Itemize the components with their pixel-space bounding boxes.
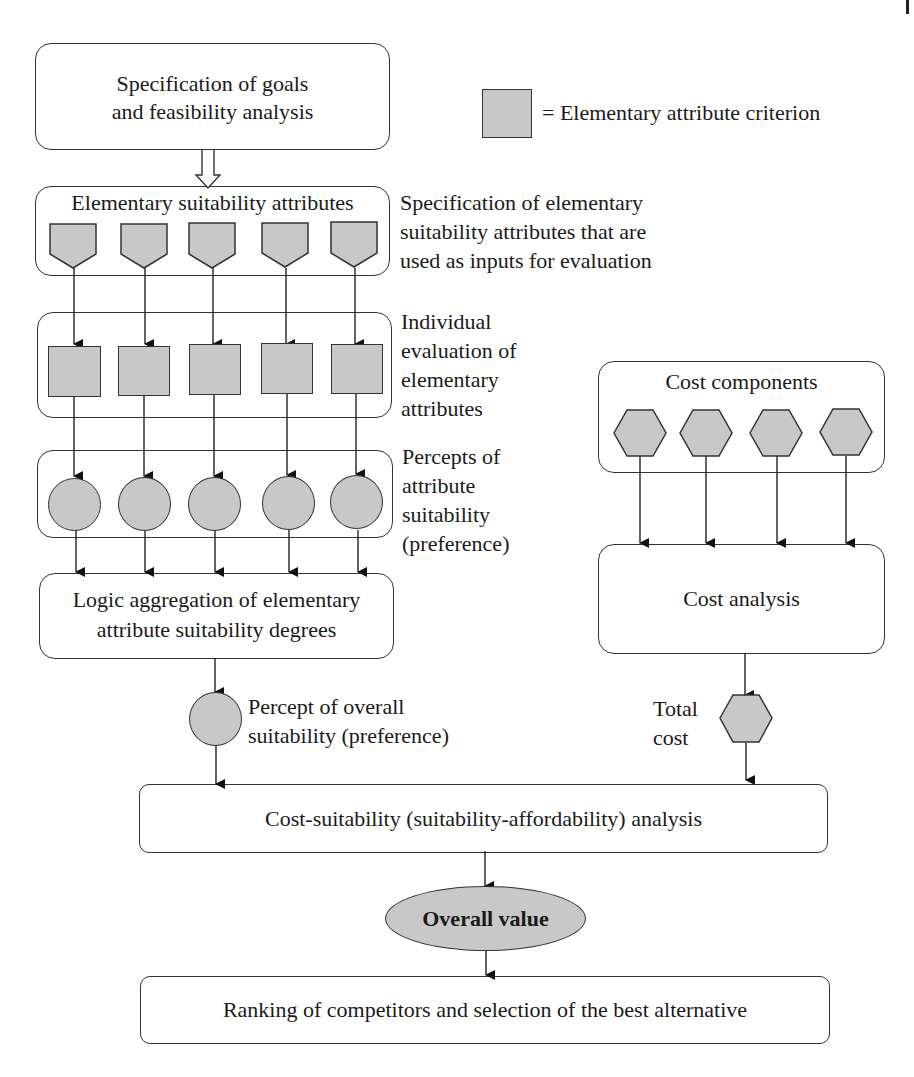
cost-analysis-title: Cost analysis	[599, 545, 884, 653]
overall-percept-annotation: Percept of overall suitability (preferen…	[248, 692, 449, 750]
cost-component-icons	[0, 0, 914, 500]
cost-hexagon-icon	[820, 409, 872, 455]
aggregation-line-2: attribute suitability degrees	[40, 616, 393, 644]
logic-aggregation-box: Logic aggregation of elementary attribut…	[39, 573, 394, 659]
cost-hexagon-icon	[680, 410, 732, 456]
aggregation-line-1: Logic aggregation of elementary	[40, 586, 393, 614]
ranking-title: Ranking of competitors and selection of …	[141, 977, 829, 1043]
ranking-box: Ranking of competitors and selection of …	[140, 976, 830, 1044]
cost-hexagon-icon	[750, 410, 802, 456]
total-cost-annotation: Total cost	[653, 694, 698, 752]
cost-hexagon-icon	[614, 410, 666, 456]
cost-suitability-box: Cost-suitability (suitability-affordabil…	[139, 784, 828, 853]
overall-value-ellipse: Overall value	[385, 886, 586, 951]
overall-percept-circle-icon	[189, 692, 242, 746]
total-cost-hexagon-icon	[718, 694, 774, 744]
overall-value-label: Overall value	[422, 906, 548, 932]
cost-suitability-title: Cost-suitability (suitability-affordabil…	[140, 785, 827, 852]
cost-analysis-box: Cost analysis	[598, 544, 885, 654]
